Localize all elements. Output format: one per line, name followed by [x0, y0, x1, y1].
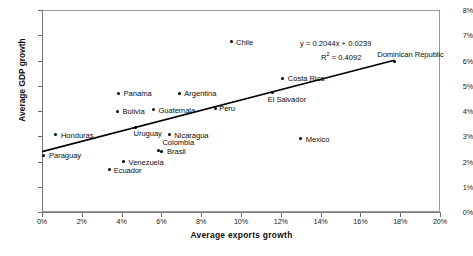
data-point-label: Guatemala [158, 106, 195, 115]
data-point-label: Peru [219, 104, 235, 113]
y-tick-label: 3% [437, 132, 473, 141]
y-tick-mark [38, 162, 42, 163]
data-point-label: Panama [124, 89, 152, 98]
x-tick-label: 4% [107, 217, 137, 226]
y-axis-title: Average GDP growth [17, 10, 27, 150]
y-tick-label: 7% [437, 31, 473, 40]
y-tick-label: 1% [437, 183, 473, 192]
y-axis-line [42, 10, 43, 213]
data-point-marker [178, 92, 181, 95]
y-tick-mark [38, 35, 42, 36]
x-tick-label: 2% [67, 217, 97, 226]
data-point-label: Argentina [184, 89, 216, 98]
x-tick-label: 6% [146, 217, 176, 226]
y-tick-mark [38, 187, 42, 188]
data-point-marker [160, 150, 163, 153]
x-tick-label: 14% [306, 217, 336, 226]
data-point-label: Costa Rica [288, 74, 325, 83]
x-tick-label: 18% [385, 217, 415, 226]
data-point-label: Venezuela [129, 158, 164, 167]
x-tick-label: 20% [425, 217, 455, 226]
y-tick-label: 0% [437, 208, 473, 217]
y-tick-mark [38, 61, 42, 62]
data-point-marker [230, 40, 233, 43]
y-tick-mark [38, 111, 42, 112]
x-tick-label: 8% [186, 217, 216, 226]
data-point-label: Paraguay [49, 151, 81, 160]
scatter-chart: 0%1%2%3%4%5%6%7%8% 0%2%4%6%8%10%12%14%16… [0, 0, 473, 256]
data-point-marker [116, 110, 119, 113]
data-point-label: Brasil [167, 147, 186, 156]
r-squared-value: = 0.4092 [329, 53, 361, 62]
r-squared-label: R2 = 0.4092 [321, 51, 361, 62]
data-point-label: Ecuador [114, 166, 142, 175]
data-point-label: Dominican Republic [377, 50, 444, 59]
data-point-label: Bolivia [123, 107, 145, 116]
data-point-marker [214, 107, 217, 110]
data-point-label: Chile [236, 38, 253, 47]
y-tick-label: 5% [437, 82, 473, 91]
data-point-label: Mexico [306, 135, 330, 144]
regression-equation: y = 0.2044x + 0.0239 [300, 39, 371, 48]
y-tick-label: 4% [437, 107, 473, 116]
data-point-label: Nicaragua [174, 131, 208, 140]
x-tick-label: 12% [266, 217, 296, 226]
y-tick-mark [38, 10, 42, 11]
x-tick-label: 0% [27, 217, 57, 226]
data-point-label: El Salvador [268, 95, 306, 104]
y-tick-label: 8% [437, 6, 473, 15]
x-axis-title: Average exports growth [42, 230, 441, 240]
data-point-label: Honduras [61, 131, 94, 140]
y-tick-label: 2% [437, 158, 473, 167]
x-tick-label: 16% [345, 217, 375, 226]
y-tick-mark [38, 136, 42, 137]
x-tick-label: 10% [226, 217, 256, 226]
y-tick-mark [38, 86, 42, 87]
data-point-marker [117, 92, 120, 95]
data-point-label: Uruguay [134, 129, 162, 138]
data-point-marker [108, 168, 111, 171]
